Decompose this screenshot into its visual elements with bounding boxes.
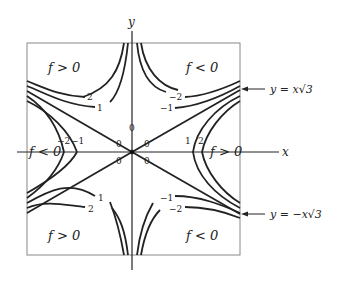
region-label-left: f < 0 — [28, 144, 61, 159]
region-label-top-right: f < 0 — [185, 60, 218, 75]
region-label-bottom-left: f > 0 — [47, 228, 80, 243]
region-label-top-left: f > 0 — [47, 60, 80, 75]
annotation-upper-line: y = x√3 — [269, 83, 313, 96]
contour-label: 1 — [97, 103, 103, 113]
annotation-lower-line: y = −x√3 — [269, 208, 322, 221]
contour-label: 1 — [185, 136, 191, 146]
origin-point — [130, 150, 134, 154]
contour-label-zero: 0 — [116, 156, 122, 166]
contour-label-zero: 0 — [116, 139, 122, 149]
y-axis-label: y — [127, 15, 135, 29]
contour-label: 2 — [198, 136, 204, 146]
contour-label-zero: 0 — [144, 156, 150, 166]
contour-label: −2 — [169, 204, 182, 214]
contour-label-zero: 0 — [129, 123, 135, 133]
contour-label: 2 — [88, 204, 94, 214]
contour-label: −2 — [169, 92, 182, 102]
region-label-right: f > 0 — [209, 144, 242, 159]
x-axis-label: x — [282, 145, 289, 159]
contour-label: 2 — [87, 92, 93, 102]
contour-label: −1 — [160, 103, 173, 113]
arrow-head-lower — [241, 212, 248, 217]
contour-diagram: y x f > 0 f < 0 f < 0 f > 0 f > 0 f < 0 … — [0, 0, 337, 285]
arrow-head-upper — [241, 87, 248, 92]
contour-label: −1 — [160, 193, 173, 203]
contour-label: 1 — [98, 193, 104, 203]
contour-label: −2 — [57, 136, 70, 146]
region-label-bottom-right: f < 0 — [185, 228, 218, 243]
contour-label: −1 — [71, 136, 84, 146]
contour-label-zero: 0 — [144, 139, 150, 149]
